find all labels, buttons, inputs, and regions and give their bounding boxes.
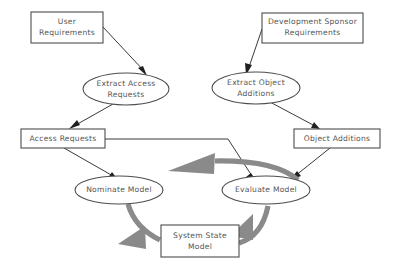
node-access-requests-label: Access Requests (30, 134, 97, 143)
edge-development-sponsor-requirements-to-extract-object-additions (245, 29, 262, 75)
node-system-state-model[interactable]: System State Model (161, 225, 239, 257)
node-evaluate-model[interactable]: Evaluate Model (222, 176, 310, 204)
edge-user-requirements-to-extract-access-requests (103, 27, 147, 76)
node-nominate-model[interactable]: Nominate Model (75, 176, 163, 204)
node-development-sponsor-requirements-label-line2: Requirements (285, 28, 341, 37)
node-development-sponsor-requirements[interactable]: Development Sponsor Requirements (262, 13, 363, 43)
node-access-requests[interactable]: Access Requests (21, 129, 105, 148)
node-extract-access-requests[interactable]: Extract Access Requests (83, 73, 169, 105)
edge-extract-object-additions-to-object-additions (270, 102, 320, 129)
node-user-requirements-label-line2: Requirements (39, 28, 95, 37)
node-extract-object-additions-label-line2: Additions (237, 89, 275, 98)
node-development-sponsor-requirements-label-line1: Development Sponsor (268, 17, 358, 26)
edge-access-requests-to-nominate-model (64, 148, 118, 180)
node-object-additions[interactable]: Object Additions (294, 129, 380, 148)
node-extract-object-additions[interactable]: Extract Object Additions (212, 72, 300, 104)
edge-nominate-model-to-system-state-model (118, 204, 160, 249)
edge-evaluate-model-to-nominate-model (168, 153, 298, 180)
diagram-root: User Requirements Development Sponsor Re… (0, 0, 400, 271)
node-system-state-model-label-line1: System State (173, 231, 227, 240)
node-object-additions-label: Object Additions (304, 134, 370, 143)
node-user-requirements-label-line1: User (58, 17, 77, 26)
node-extract-object-additions-label-line1: Extract Object (227, 78, 285, 87)
node-nominate-model-label: Nominate Model (86, 185, 152, 194)
edge-extract-access-requests-to-access-requests (69, 104, 113, 129)
node-extract-access-requests-label-line1: Extract Access (96, 79, 155, 88)
process-flow-diagram: User Requirements Development Sponsor Re… (0, 0, 400, 271)
node-extract-access-requests-label-line2: Requests (108, 90, 145, 99)
node-user-requirements[interactable]: User Requirements (31, 12, 103, 43)
node-evaluate-model-label: Evaluate Model (235, 185, 297, 194)
node-system-state-model-label-line2: Model (188, 242, 212, 251)
